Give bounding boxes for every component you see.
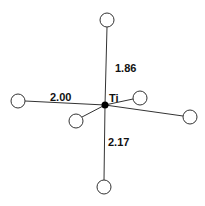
bond-far-right [105,105,183,116]
bond-top [105,27,107,105]
bond-length-top: 1.86 [115,62,136,74]
ligand-atom-left [11,94,25,108]
ligand-atom-far-right [183,110,197,124]
bond-length-left: 2.00 [50,91,71,103]
bond-bottom [104,105,105,180]
center-atom-label: Ti [109,92,119,104]
bond-length-bottom: 2.17 [108,136,129,148]
bond-lower-left [82,105,105,117]
ligand-atom-bottom [97,180,111,194]
ti-atom [102,102,109,109]
ligand-atom-top [100,13,114,27]
ti-coordination-diagram: Ti 1.86 2.00 2.17 [0,0,205,206]
ligand-atom-lower-left [69,114,83,128]
ligand-atom-near-right [133,91,147,105]
